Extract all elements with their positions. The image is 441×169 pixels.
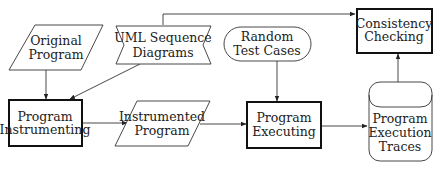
node-label: Instrumented (119, 109, 205, 124)
node-label: Program (372, 111, 427, 126)
node-consistency-checking: Consistency Checking (356, 9, 433, 53)
node-label: Original (30, 33, 82, 48)
node-label: Execution (368, 125, 431, 140)
node-program-execution-traces: Program Execution Traces (368, 82, 432, 161)
node-label: Program (256, 110, 311, 125)
flowchart: Original Program UML Sequence Diagrams P… (0, 0, 441, 169)
node-label: UML Sequence (114, 30, 211, 45)
edge-uml-to-consistency (163, 14, 355, 25)
node-random-test-cases: Random Test Cases (224, 27, 311, 61)
node-label: Traces (379, 139, 422, 154)
node-program-executing: Program Executing (247, 102, 321, 148)
node-program-instrumenting: Program Instrumenting (0, 100, 90, 146)
node-label: Instrumenting (0, 122, 90, 137)
node-label: Program (28, 47, 83, 62)
node-uml-sequence-diagrams: UML Sequence Diagrams (114, 26, 211, 64)
node-label: Program (134, 123, 189, 138)
node-label: Checking (364, 29, 424, 44)
node-label: Executing (252, 124, 316, 139)
node-label: Diagrams (132, 45, 193, 60)
node-original-program: Original Program (9, 25, 103, 70)
node-label: Test Cases (233, 43, 300, 58)
node-instrumented-program: Instrumented Program (115, 101, 210, 146)
node-label: Random (241, 29, 294, 44)
